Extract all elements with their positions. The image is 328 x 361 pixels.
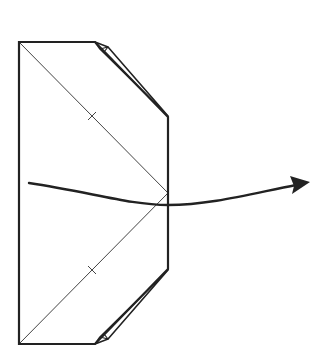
diagram-canvas (0, 0, 328, 361)
fold-diagram (0, 0, 328, 361)
